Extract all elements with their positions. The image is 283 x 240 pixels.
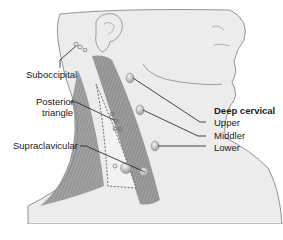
label-deep-cervical-upper: Upper [214, 118, 240, 128]
label-deep-cervical-middle: Middler [214, 131, 245, 141]
label-suboccipital: Suboccipital [26, 70, 77, 80]
label-supraclavicular: Supraclavicular [13, 141, 78, 151]
label-deep-cervical-heading: Deep cervical [214, 106, 275, 116]
label-posterior-triangle-line1: Posterior [36, 97, 74, 107]
label-deep-cervical-lower: Lower [214, 143, 240, 153]
label-posterior-triangle-line2: triangle [42, 108, 73, 118]
